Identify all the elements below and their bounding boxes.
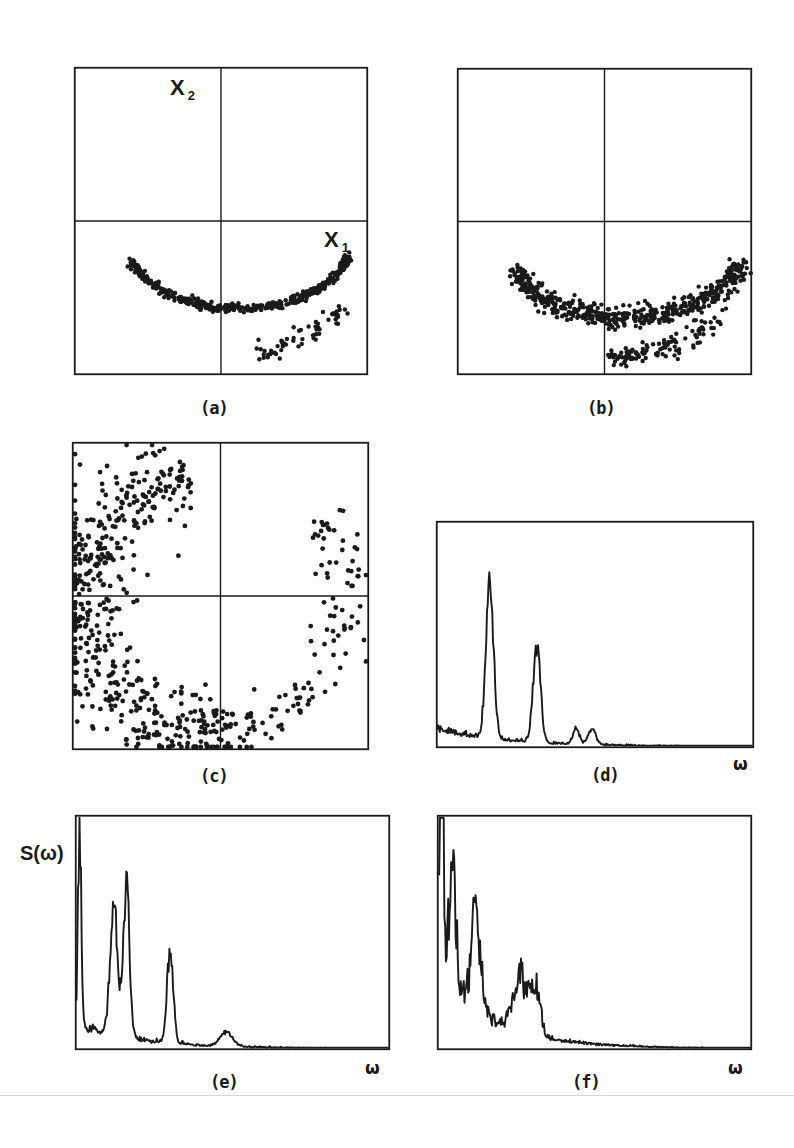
caption-e: (e)	[210, 1072, 238, 1092]
x2-subscript: 2	[188, 88, 195, 103]
power-spectrum-f	[437, 815, 752, 1050]
scatter-plot-a	[74, 67, 368, 375]
x-axis-label-omega-f: ω	[728, 1058, 743, 1078]
spectrum-plot-d	[436, 521, 754, 748]
y-axis-label-x2: X2	[170, 75, 195, 103]
caption-b: (b)	[587, 398, 615, 418]
y-axis-label-s-omega: S(ω)	[20, 842, 64, 865]
phase-portrait-b	[457, 68, 752, 375]
x1-label: X	[324, 227, 339, 252]
power-spectrum-d	[436, 521, 754, 748]
scatter-plot-b	[457, 68, 752, 375]
x2-label: X	[170, 75, 185, 100]
phase-portrait-c	[72, 442, 369, 750]
phase-portrait-a: X2 X1	[74, 67, 368, 375]
x-axis-label-omega-e: ω	[365, 1058, 380, 1078]
spectrum-plot-f	[437, 815, 752, 1050]
caption-a: (a)	[200, 398, 228, 418]
caption-d: (d)	[591, 765, 619, 785]
caption-c: (c)	[200, 766, 228, 786]
x-axis-label-x1: X1	[324, 227, 349, 255]
x1-subscript: 1	[342, 240, 349, 255]
power-spectrum-e	[75, 815, 390, 1050]
x-axis-label-omega-d: ω	[733, 754, 748, 774]
caption-f: (f)	[572, 1072, 600, 1092]
scatter-plot-c	[72, 442, 369, 750]
scan-artifact-line	[0, 1095, 794, 1096]
spectrum-plot-e	[75, 815, 390, 1050]
